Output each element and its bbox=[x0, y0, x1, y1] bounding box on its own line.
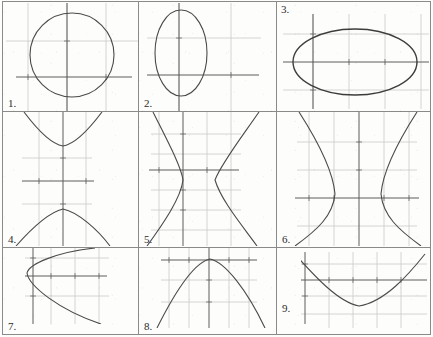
curve-ellipse-2 bbox=[155, 10, 207, 96]
gridlines-7 bbox=[25, 248, 109, 324]
gridlines-5 bbox=[151, 112, 241, 246]
ticks-7 bbox=[30, 258, 99, 296]
plot-area-1 bbox=[6, 3, 138, 111]
graph-svg-1 bbox=[6, 3, 138, 111]
axes-7 bbox=[25, 248, 107, 324]
graph-svg-6 bbox=[281, 112, 429, 246]
graph-panel-5[interactable]: 5. bbox=[139, 112, 277, 248]
curve-circle-1 bbox=[30, 13, 114, 97]
axes-1 bbox=[16, 3, 132, 111]
graph-svg-4 bbox=[6, 112, 138, 246]
plot-area-2 bbox=[141, 3, 275, 111]
plot-area-6 bbox=[281, 112, 429, 246]
graph-svg-5 bbox=[141, 112, 275, 246]
worksheet-sheet: 1. bbox=[0, 0, 433, 337]
ticks-2 bbox=[176, 38, 231, 78]
plot-area-7 bbox=[9, 248, 137, 324]
graph-svg-3 bbox=[283, 14, 429, 109]
gridlines-9 bbox=[301, 252, 427, 328]
graph-panel-4[interactable]: 4. bbox=[3, 112, 139, 248]
curve-hyperbola-5 bbox=[147, 112, 259, 246]
panel-number-6: 6. bbox=[282, 234, 290, 245]
plot-area-4 bbox=[6, 112, 138, 246]
gridlines-1 bbox=[6, 3, 138, 111]
graph-panel-8[interactable]: 8. bbox=[139, 248, 277, 334]
plot-area-8 bbox=[143, 248, 275, 328]
plot-area-3 bbox=[283, 14, 429, 109]
panel-number-1: 1. bbox=[8, 98, 16, 109]
graph-svg-7 bbox=[9, 248, 137, 324]
gridlines-6 bbox=[297, 112, 417, 246]
axes-4 bbox=[22, 112, 94, 246]
graph-panel-6[interactable]: 6. bbox=[277, 112, 430, 248]
curve-parabola-7 bbox=[27, 248, 101, 324]
gridlines-4 bbox=[22, 112, 92, 246]
panel-number-4: 4. bbox=[8, 234, 16, 245]
curve-parabola-9 bbox=[301, 252, 425, 306]
gridlines-2 bbox=[147, 3, 261, 111]
panel-number-8: 8. bbox=[144, 321, 152, 332]
axes-2 bbox=[147, 3, 259, 111]
axes-9 bbox=[301, 252, 427, 324]
graph-panel-3[interactable]: 3. bbox=[277, 2, 430, 112]
graph-panel-7[interactable]: 7. bbox=[3, 248, 139, 334]
panel-number-2: 2. bbox=[144, 98, 152, 109]
panel-number-9: 9. bbox=[282, 303, 290, 314]
graph-panel-2[interactable]: 2. bbox=[139, 2, 277, 112]
graph-grid: 1. bbox=[2, 1, 431, 335]
panel-number-7: 7. bbox=[8, 321, 16, 332]
graph-svg-8 bbox=[143, 248, 275, 328]
plot-area-5 bbox=[141, 112, 275, 246]
panel-number-5: 5. bbox=[144, 234, 152, 245]
graph-panel-9[interactable]: 9. bbox=[277, 248, 430, 334]
graph-svg-9 bbox=[301, 252, 427, 328]
plot-area-9 bbox=[301, 252, 427, 328]
graph-svg-2 bbox=[141, 3, 275, 111]
graph-panel-1[interactable]: 1. bbox=[3, 2, 139, 112]
